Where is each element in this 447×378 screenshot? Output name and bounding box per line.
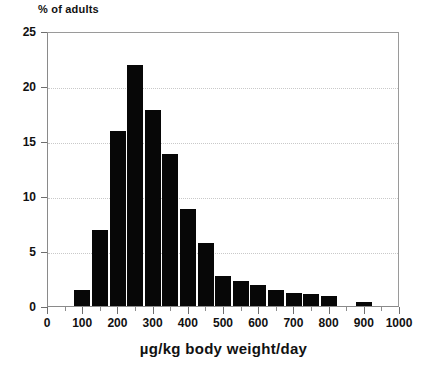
y-tick-label: 0: [8, 300, 36, 314]
x-tick: [223, 307, 224, 314]
bar: [250, 285, 266, 306]
x-minor-tick: [381, 307, 382, 311]
x-tick-label: 1000: [386, 316, 413, 330]
x-tick-label: 300: [143, 316, 163, 330]
x-minor-tick: [170, 307, 171, 311]
x-tick: [47, 307, 48, 314]
x-tick-label: 100: [72, 316, 92, 330]
x-tick: [117, 307, 118, 314]
bar: [286, 293, 302, 306]
y-tick: [41, 142, 47, 143]
x-tick: [188, 307, 189, 314]
x-tick: [329, 307, 330, 314]
x-minor-tick: [311, 307, 312, 311]
bar: [215, 276, 231, 306]
y-tick-label: 25: [8, 25, 36, 39]
x-tick-label: 0: [44, 316, 51, 330]
y-tick-label: 20: [8, 80, 36, 94]
x-minor-tick: [100, 307, 101, 311]
y-axis-title: % of adults: [38, 3, 99, 15]
bar: [268, 290, 284, 307]
bar: [110, 131, 126, 306]
x-tick: [293, 307, 294, 314]
x-minor-tick: [346, 307, 347, 311]
x-tick: [258, 307, 259, 314]
y-tick-label: 10: [8, 190, 36, 204]
bar: [233, 281, 249, 306]
bar: [127, 65, 143, 306]
x-minor-tick: [65, 307, 66, 311]
x-tick-label: 900: [354, 316, 374, 330]
bar: [145, 110, 161, 306]
bar: [321, 296, 337, 306]
y-tick-label: 15: [8, 135, 36, 149]
bar-series: [48, 33, 398, 306]
plot-area: [47, 32, 399, 307]
x-minor-tick: [205, 307, 206, 311]
y-tick: [41, 32, 47, 33]
x-tick-label: 200: [107, 316, 127, 330]
x-minor-tick: [135, 307, 136, 311]
x-tick-label: 700: [283, 316, 303, 330]
y-tick: [41, 252, 47, 253]
x-tick: [399, 307, 400, 314]
bar: [92, 230, 108, 306]
y-tick-label: 5: [8, 245, 36, 259]
x-tick-label: 600: [248, 316, 268, 330]
x-minor-tick: [241, 307, 242, 311]
bar: [74, 290, 90, 307]
x-minor-tick: [276, 307, 277, 311]
x-tick: [364, 307, 365, 314]
x-tick-label: 500: [213, 316, 233, 330]
bar: [356, 302, 372, 306]
x-tick: [153, 307, 154, 314]
y-tick: [41, 197, 47, 198]
histogram-chart: % of adults 0510152025 01002003004005006…: [0, 0, 447, 378]
x-tick: [82, 307, 83, 314]
y-tick: [41, 87, 47, 88]
bar: [162, 154, 178, 306]
x-tick-label: 400: [178, 316, 198, 330]
x-axis-title: µg/kg body weight/day: [0, 340, 447, 357]
bar: [180, 209, 196, 306]
x-tick-label: 800: [319, 316, 339, 330]
bar: [198, 243, 214, 306]
bar: [303, 294, 319, 306]
